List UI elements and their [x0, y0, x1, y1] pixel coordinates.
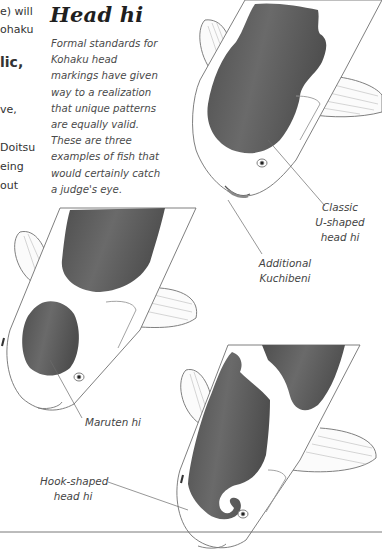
intro-line: markings have given [51, 68, 181, 84]
leader-hook [108, 482, 188, 510]
label-hook-shaped: Hook-shaped head hi [40, 474, 106, 504]
label-classic-u-shaped: Classic U-shaped head hi [305, 200, 375, 245]
koi-fish-hook [177, 345, 376, 548]
intro-line: a judge's eye. [51, 182, 181, 198]
leader-kuchibeni [228, 200, 262, 254]
koi-fish-classic [193, 0, 382, 197]
section-title: Head hi [50, 2, 143, 27]
label-maruten-hi: Maruten hi [82, 415, 144, 430]
intro-line: way to a realization [51, 85, 181, 101]
intro-line: Kohaku head [51, 52, 181, 68]
intro-line: would certainly catch [51, 166, 181, 182]
koi-fish-maruten [2, 208, 197, 410]
label-additional-kuchibeni: Additional Kuchibeni [245, 256, 325, 286]
intro-line: are equally valid. [51, 117, 181, 133]
intro-line: These are three [51, 133, 181, 149]
intro-line: that unique patterns [51, 101, 181, 117]
intro-line: examples of fish that [51, 149, 181, 165]
intro-line: Formal standards for [51, 36, 181, 52]
section-intro: Formal standards for Kohaku head marking… [51, 36, 181, 198]
